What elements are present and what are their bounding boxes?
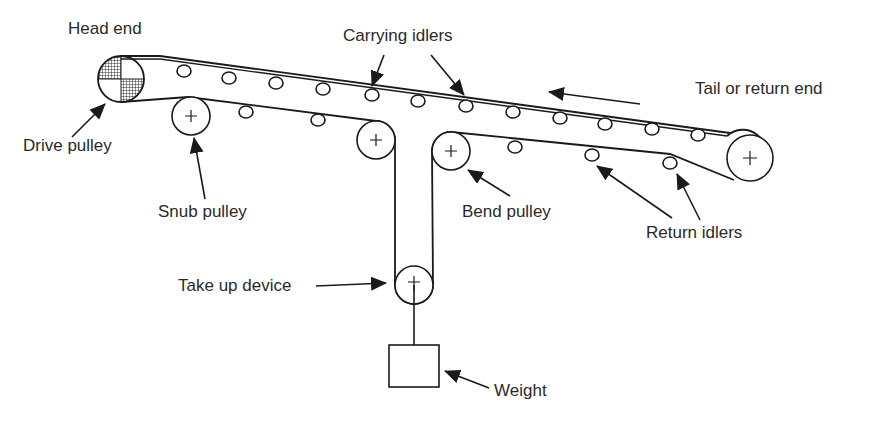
direction-arrow (549, 92, 640, 104)
callout-carrying-idler-1 (372, 55, 384, 86)
label-weight: Weight (494, 382, 547, 399)
label-take-up-device: Take up device (178, 277, 291, 294)
carrying-idlers (177, 65, 705, 141)
callout-drive-pulley (72, 104, 105, 137)
label-snub-pulley: Snub pulley (158, 203, 247, 220)
belt-vertical-right (432, 151, 433, 285)
snub-pulley (172, 97, 210, 135)
label-tail-end: Tail or return end (695, 80, 823, 97)
callout-snub-pulley (194, 138, 205, 199)
weight-box (389, 345, 439, 387)
label-return-idlers: Return idlers (646, 224, 742, 241)
callout-carrying-idler-2 (431, 55, 464, 95)
label-carrying-idlers: Carrying idlers (343, 27, 453, 44)
callout-weight (445, 371, 489, 388)
bend-pulley-left (357, 121, 395, 159)
callout-return-idler-2 (677, 174, 700, 220)
bend-pulley-right (432, 132, 470, 170)
tail-pulley (727, 135, 773, 181)
drive-pulley (98, 56, 144, 102)
label-drive-pulley: Drive pulley (23, 137, 112, 154)
label-bend-pulley: Bend pulley (462, 203, 551, 220)
label-head-end: Head end (68, 20, 142, 37)
callout-bend-pulley (468, 170, 510, 196)
conveyor-diagram (0, 0, 872, 424)
callout-take-up (316, 283, 386, 286)
callout-return-idler-1 (597, 166, 672, 218)
